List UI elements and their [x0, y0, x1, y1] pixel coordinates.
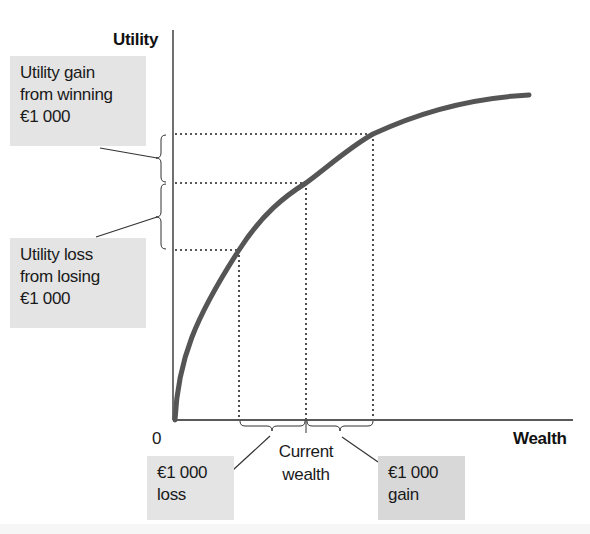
utility-gain-callout: Utility gain from winning €1 000	[10, 56, 146, 146]
callout-line: Utility loss	[20, 244, 136, 266]
callout-line: Utility gain	[20, 62, 136, 84]
callout-line: Current	[266, 440, 346, 463]
vertical-guides	[239, 134, 373, 419]
callout-line: from losing	[20, 266, 136, 288]
wealth-gain-callout: €1 000 gain	[378, 456, 465, 520]
callout-line: €1 000	[20, 106, 136, 128]
callout-line: gain	[388, 484, 455, 506]
callout-line: €1 000	[157, 462, 224, 484]
origin-label: 0	[152, 427, 161, 450]
wealth-loss-callout: €1 000 loss	[147, 456, 234, 520]
callout-line: loss	[157, 484, 224, 506]
x-axis-label: Wealth	[513, 429, 567, 449]
callout-line: wealth	[266, 463, 346, 486]
utility-loss-callout: Utility loss from losing €1 000	[10, 238, 146, 328]
y-axis-label: Utility	[113, 30, 158, 50]
x-braces	[240, 420, 373, 433]
y-braces	[156, 135, 166, 249]
callout-line: from winning	[20, 84, 136, 106]
callout-line: €1 000	[388, 462, 455, 484]
current-wealth-label: Current wealth	[266, 440, 346, 486]
callout-line: €1 000	[20, 288, 136, 310]
utility-curve	[175, 95, 529, 420]
